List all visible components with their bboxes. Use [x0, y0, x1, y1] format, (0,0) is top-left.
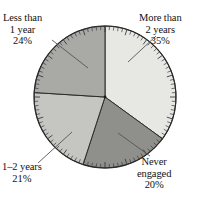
pie-center-point: [104, 96, 107, 99]
callout-more-than-2-years-line2: 2 years: [139, 24, 182, 36]
callout-never-engaged-line1: Never: [137, 156, 171, 168]
callout-less-than-1-year-percent: 24%: [3, 35, 42, 47]
callout-more-than-2-years-line1: More than: [139, 12, 182, 24]
callout-less-than-1-year-line1: Less than: [3, 12, 42, 24]
callout-never-engaged-line2: engaged: [137, 168, 171, 180]
callout-never-engaged-percent: 20%: [137, 179, 171, 191]
tick-mark: [96, 27, 97, 31]
callout-1-2-years: 1–2 years 21%: [2, 161, 42, 184]
tick-mark: [113, 163, 114, 167]
callout-more-than-2-years-percent: 35%: [139, 35, 182, 47]
tick-mark: [35, 88, 39, 89]
callout-less-than-1-year: Less than 1 year 24%: [3, 12, 42, 47]
tick-mark: [171, 88, 175, 89]
callout-more-than-2-years: More than 2 years 35%: [139, 12, 182, 47]
callout-1-2-years-line1: 1–2 years: [2, 161, 42, 173]
tick-mark: [96, 163, 97, 167]
tick-mark: [35, 105, 39, 106]
pie-chart-figure: Less than 1 year 24% More than 2 years 3…: [0, 0, 204, 200]
callout-never-engaged: Never engaged 20%: [137, 156, 171, 191]
callout-1-2-years-percent: 21%: [2, 173, 42, 185]
pie-slice-less-than-1-year: [34, 26, 105, 97]
callout-less-than-1-year-line2: 1 year: [3, 24, 42, 36]
tick-mark: [113, 27, 114, 31]
tick-mark: [171, 105, 175, 106]
